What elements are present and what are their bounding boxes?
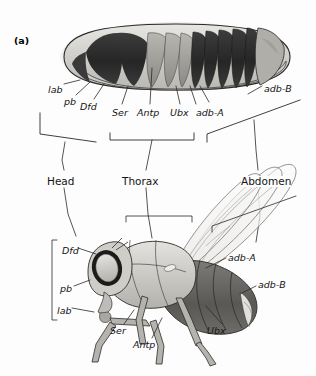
embryo-gene-pb: pb	[64, 97, 76, 107]
adult-gene-adb-a: adb-A	[228, 253, 256, 263]
embryo-gene-adb-b: adb-B	[264, 84, 292, 94]
embryo-gene-antp: Antp	[137, 108, 159, 118]
adult-gene-antp: Antp	[133, 340, 155, 350]
region-label-head: Head	[47, 176, 74, 187]
adult-gene-lab: lab	[57, 306, 72, 316]
embryo-gene-adb-a: adb-A	[196, 108, 224, 118]
embryo-gene-ser: Ser	[112, 108, 128, 118]
adult-gene-dfd: Dfd	[62, 246, 79, 256]
adult-gene-adb-b: adb-B	[258, 280, 286, 290]
adult-gene-ser: Ser	[110, 326, 126, 336]
head	[88, 238, 132, 323]
adult-gene-ubx: Ubx	[207, 326, 226, 336]
figure-artwork	[0, 0, 316, 376]
embryo-gene-ubx: Ubx	[170, 108, 189, 118]
embryo-illustration	[60, 22, 292, 92]
adult-gene-pb: pb	[60, 284, 72, 294]
region-label-abdomen: Abdomen	[241, 176, 291, 187]
hox-expression-figure: (a) lab pb Dfd Ser Antp Ubx adb-A adb-B …	[0, 0, 316, 376]
embryo-gene-lab: lab	[48, 85, 63, 95]
embryo-gene-dfd: Dfd	[80, 102, 97, 112]
region-label-thorax: Thorax	[122, 176, 158, 187]
panel-label: (a)	[14, 36, 29, 46]
